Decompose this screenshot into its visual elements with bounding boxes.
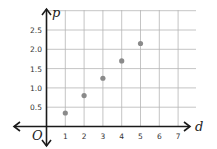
y-tick-label: 0.5 — [30, 103, 42, 112]
x-axis-label: d — [195, 119, 203, 134]
x-tick-label: 6 — [157, 132, 162, 141]
y-tick-label: 1.0 — [30, 84, 42, 93]
x-tick-label: 1 — [63, 132, 68, 141]
y-tick-labels: 0.51.01.52.02.5 — [30, 26, 42, 112]
y-tick-label: 2.0 — [30, 45, 42, 54]
data-point — [119, 58, 124, 63]
data-point — [138, 41, 143, 46]
data-point — [100, 76, 105, 81]
x-tick-label: 4 — [119, 132, 124, 141]
x-tick-label: 7 — [176, 132, 181, 141]
scatter-chart: d p O 1234567 0.51.01.52.02.5 — [0, 0, 217, 149]
grid — [47, 10, 197, 127]
x-tick-label: 3 — [101, 132, 106, 141]
x-tick-label: 5 — [138, 132, 143, 141]
y-tick-label: 2.5 — [30, 26, 42, 35]
origin-label: O — [32, 128, 43, 143]
data-point — [63, 110, 68, 115]
x-tick-label: 2 — [82, 132, 87, 141]
data-point — [82, 93, 87, 98]
x-tick-labels: 1234567 — [63, 132, 181, 141]
y-axis-label: p — [52, 5, 61, 20]
y-tick-label: 1.5 — [30, 65, 42, 74]
